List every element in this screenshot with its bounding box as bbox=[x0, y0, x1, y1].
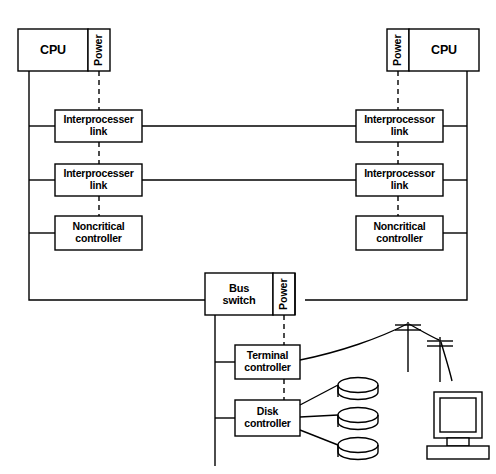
power-right-box[interactable] bbox=[387, 29, 409, 71]
disk-platter-3 bbox=[338, 438, 378, 460]
noncritical-left-box[interactable] bbox=[55, 216, 142, 250]
disk-link-2 bbox=[300, 415, 338, 417]
cpu-right-box[interactable] bbox=[409, 29, 479, 71]
block-diagram bbox=[0, 0, 496, 474]
cpu-left-box[interactable] bbox=[18, 29, 88, 71]
power-left-box[interactable] bbox=[88, 29, 110, 71]
utility-pole-1 bbox=[395, 322, 421, 372]
noncritical-right-box[interactable] bbox=[356, 216, 443, 250]
pole-to-terminal-cable bbox=[441, 342, 452, 381]
disk-link-3 bbox=[300, 430, 338, 445]
link-left-2-box[interactable] bbox=[55, 164, 142, 196]
terminal-controller-box[interactable] bbox=[235, 345, 300, 379]
diagram-canvas: CPU Power Power CPU Interprocesser link … bbox=[0, 0, 496, 474]
disk-link-1 bbox=[300, 385, 338, 405]
power-bus-box[interactable] bbox=[273, 273, 295, 315]
utility-pole-2 bbox=[427, 337, 453, 382]
disk-controller-box[interactable] bbox=[235, 400, 300, 436]
disk-platter-1 bbox=[338, 378, 378, 400]
pole-to-pole-cable bbox=[409, 324, 439, 340]
link-right-1-box[interactable] bbox=[356, 110, 443, 142]
bus-switch-box[interactable] bbox=[205, 273, 273, 315]
link-right-2-box[interactable] bbox=[356, 164, 443, 196]
disk-platter-2 bbox=[338, 408, 378, 430]
link-left-1-box[interactable] bbox=[55, 110, 142, 142]
terminal-monitor[interactable] bbox=[427, 392, 489, 459]
terminal-cable-to-pole bbox=[300, 324, 407, 360]
